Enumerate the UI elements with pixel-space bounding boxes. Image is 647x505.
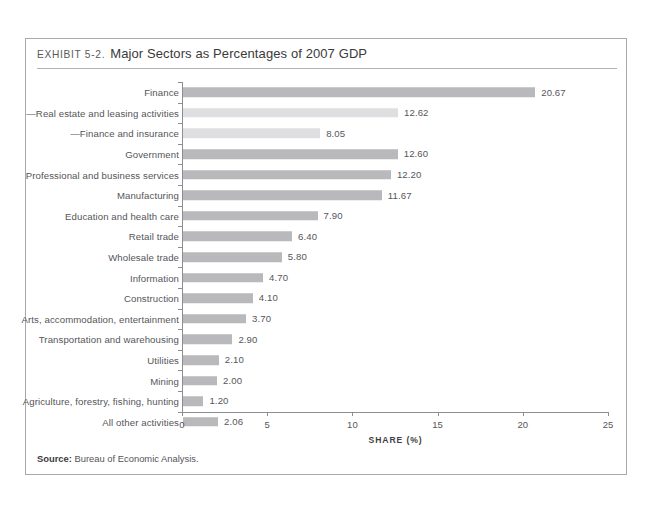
category-label: Wholesale trade <box>108 252 179 263</box>
bar <box>183 396 203 406</box>
bar-value-label: 12.60 <box>404 149 429 160</box>
bar-group: 8.05 <box>183 129 345 139</box>
chart-rows: Finance20.67—Real estate and leasing act… <box>26 82 628 432</box>
y-axis-tick <box>178 103 182 104</box>
y-axis-tick <box>178 350 182 351</box>
category-label: Arts, accommodation, entertainment <box>21 313 179 324</box>
bar-value-label: 11.67 <box>388 190 412 201</box>
x-axis-tick-label: 15 <box>432 419 443 430</box>
bar-value-label: 8.05 <box>326 128 345 139</box>
source-note: Source: Bureau of Economic Analysis. <box>37 453 199 464</box>
chart-row: Mining2.00 <box>26 370 628 391</box>
category-label: —Real estate and leasing activities <box>26 107 179 118</box>
category-label: All other activities <box>102 416 179 427</box>
x-axis-tick <box>182 412 183 416</box>
bar-value-label: 4.70 <box>269 272 288 283</box>
chart-row: —Finance and insurance8.05 <box>26 123 628 144</box>
x-axis-tick-label: 25 <box>603 419 614 430</box>
chart-row: Education and health care7.90 <box>26 206 628 227</box>
bar <box>183 170 391 180</box>
bar-value-label: 1.20 <box>209 396 228 407</box>
chart-row: Transportation and warehousing2.90 <box>26 329 628 350</box>
exhibit-frame: EXHIBIT 5-2.Major Sectors as Percentages… <box>25 38 627 475</box>
y-axis-tick <box>178 247 182 248</box>
x-axis-tick-label: 0 <box>179 419 184 430</box>
category-label: Manufacturing <box>117 190 179 201</box>
chart-row: Arts, accommodation, entertainment3.70 <box>26 309 628 330</box>
bar-group: 4.10 <box>183 293 278 303</box>
bar-chart: Finance20.67—Real estate and leasing act… <box>26 39 628 476</box>
bar-group: 12.60 <box>183 149 428 159</box>
y-axis-tick <box>178 391 182 392</box>
x-axis-tick <box>523 412 524 416</box>
bar-group: 7.90 <box>183 211 343 221</box>
chart-row: Professional and business services12.20 <box>26 164 628 185</box>
bar <box>183 376 217 386</box>
bar <box>183 232 292 242</box>
x-axis-tick <box>352 412 353 416</box>
x-axis-tick <box>608 412 609 416</box>
bar-group: 6.40 <box>183 232 317 242</box>
category-label: Government <box>125 149 179 160</box>
y-axis-tick <box>178 267 182 268</box>
x-axis-tick-label: 20 <box>518 419 529 430</box>
bar <box>183 108 398 118</box>
bar <box>183 293 253 303</box>
x-axis-tick <box>267 412 268 416</box>
bar-group: 3.70 <box>183 314 271 324</box>
x-axis-tick <box>438 412 439 416</box>
bar-value-label: 20.67 <box>541 87 566 98</box>
y-axis-tick <box>178 82 182 83</box>
bar <box>183 355 219 365</box>
x-axis-tick-label: 5 <box>265 419 270 430</box>
bar-group: 20.67 <box>183 88 566 98</box>
y-axis-tick <box>178 226 182 227</box>
y-axis-tick <box>178 370 182 371</box>
bar-value-label: 4.10 <box>259 293 278 304</box>
category-label: Retail trade <box>129 231 179 242</box>
chart-row: All other activities2.06 <box>26 412 628 433</box>
y-axis-tick <box>178 144 182 145</box>
category-label: Finance <box>144 87 179 98</box>
category-label: Information <box>130 272 179 283</box>
chart-row: Finance20.67 <box>26 82 628 103</box>
bar <box>183 273 263 283</box>
bar <box>183 88 535 98</box>
category-label: Education and health care <box>65 210 179 221</box>
category-label: Transportation and warehousing <box>39 334 179 345</box>
source-label: Source: <box>37 453 72 464</box>
bar-group: 4.70 <box>183 273 288 283</box>
y-axis-tick <box>178 309 182 310</box>
bar-value-label: 3.70 <box>252 313 271 324</box>
bar <box>183 211 318 221</box>
category-label: Mining <box>150 375 179 386</box>
x-axis-tick-label: 10 <box>347 419 358 430</box>
bar-group: 12.62 <box>183 108 429 118</box>
y-axis-tick <box>178 329 182 330</box>
bar-value-label: 5.80 <box>288 252 307 263</box>
chart-row: Manufacturing11.67 <box>26 185 628 206</box>
bar-group: 2.90 <box>183 335 257 345</box>
bar-value-label: 2.90 <box>238 334 257 345</box>
y-axis-tick <box>178 288 182 289</box>
source-text: Bureau of Economic Analysis. <box>75 453 199 464</box>
chart-row: Wholesale trade5.80 <box>26 247 628 268</box>
bar-group: 11.67 <box>183 191 412 201</box>
chart-row: Construction4.10 <box>26 288 628 309</box>
bar-group: 12.20 <box>183 170 421 180</box>
bar-group: 2.10 <box>183 355 244 365</box>
chart-row: Government12.60 <box>26 144 628 165</box>
chart-row: Information4.70 <box>26 267 628 288</box>
bar <box>183 252 282 262</box>
bar <box>183 417 218 427</box>
bar-group: 1.20 <box>183 396 229 406</box>
bar-value-label: 2.00 <box>223 375 242 386</box>
y-axis-tick <box>178 123 182 124</box>
category-label: Agriculture, forestry, fishing, hunting <box>23 396 179 407</box>
y-axis-tick <box>178 206 182 207</box>
bar <box>183 314 246 324</box>
category-label: Utilities <box>147 355 179 366</box>
bar-value-label: 2.06 <box>224 416 243 427</box>
bar <box>183 335 232 345</box>
y-axis-tick <box>178 164 182 165</box>
